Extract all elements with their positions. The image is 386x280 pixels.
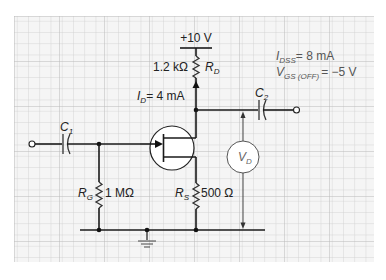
output-terminal [294,107,300,113]
source-resistor-value: 500 Ω [201,186,233,200]
input-terminal [29,141,35,147]
circuit-diagram: +10 V 1.2 kΩ RD ID= 4 mA C2 VD [0,0,386,280]
drain-resistor-value: 1.2 kΩ [153,60,188,74]
supply-label: +10 V [180,31,212,45]
gate-resistor-value: 1 MΩ [105,186,134,200]
